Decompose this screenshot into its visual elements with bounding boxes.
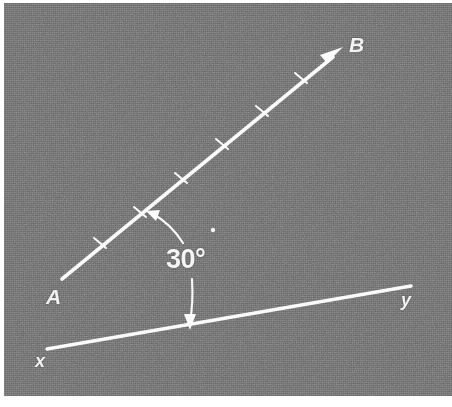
label-point-a: A: [46, 286, 61, 307]
diagram-panel: [4, 3, 452, 396]
label-axis-y: y: [401, 291, 411, 309]
label-point-b: B: [349, 34, 364, 55]
dot-marker: [211, 228, 215, 232]
geometry-canvas: [0, 0, 452, 407]
figure-root: A B x y 30°: [0, 0, 452, 407]
label-axis-x: x: [35, 352, 45, 370]
label-angle-value: 30°: [166, 246, 205, 273]
